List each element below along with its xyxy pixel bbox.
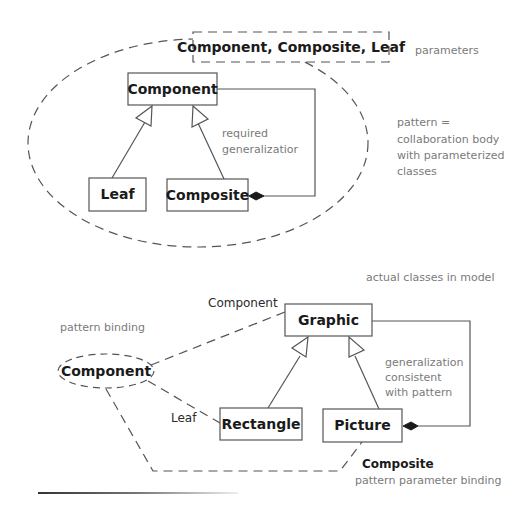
pattern-description-1: pattern = [397, 116, 450, 129]
parameters-note: parameters [415, 44, 479, 57]
generalization-picture-graphic [349, 337, 379, 409]
class-graphic[interactable]: Graphic [285, 304, 372, 336]
bottom-rule-divider [38, 492, 238, 494]
class-composite-label: Composite [166, 187, 249, 203]
collaboration-use-label: Component [61, 363, 152, 379]
generalization-arrowhead-icon [349, 337, 364, 357]
pattern-binding-note: pattern binding [60, 321, 145, 334]
parameters-box-text: Component, Composite, Leaf [177, 39, 406, 55]
composition-diamond-icon [249, 192, 264, 200]
class-leaf[interactable]: Leaf [89, 178, 146, 211]
pattern-description-3: with parameterized [397, 149, 505, 162]
parameter-binding-note: pattern parameter binding [355, 474, 502, 487]
generalization-consistent-note-3: with pattern [385, 386, 452, 399]
class-graphic-label: Graphic [298, 312, 359, 328]
role-label-component: Component [208, 296, 278, 310]
actual-classes-note: actual classes in model [366, 271, 494, 284]
generalization-arrowhead-icon [192, 106, 208, 127]
class-picture-label: Picture [334, 417, 390, 433]
generalization-consistent-note-2: consistent [385, 371, 442, 384]
class-composite[interactable]: Composite [166, 179, 249, 211]
class-component-label: Component [127, 81, 218, 97]
class-rectangle-label: Rectangle [222, 416, 301, 432]
generalization-arrowhead-icon [292, 337, 308, 357]
role-label-composite: Composite [362, 457, 434, 471]
binding-line-component [151, 312, 285, 365]
generalization-consistent-note-1: generalization [385, 356, 463, 369]
pattern-description-4: classes [397, 165, 437, 178]
pattern-description-2: collaboration body [397, 133, 500, 146]
generalization-leaf-component [112, 106, 152, 178]
collaboration-ellipse [28, 39, 368, 247]
collaboration-use-component[interactable]: Component [58, 354, 154, 388]
required-generalization-note-1: required [222, 127, 268, 140]
class-picture[interactable]: Picture [323, 409, 402, 442]
class-rectangle[interactable]: Rectangle [220, 408, 302, 440]
role-label-leaf: Leaf [171, 411, 197, 425]
required-generalization-note-2: generalizatior [222, 143, 298, 156]
class-component[interactable]: Component [127, 73, 218, 105]
generalization-rectangle-graphic [268, 337, 308, 408]
uml-diagram: Component, Composite, Leaf parameters Co… [0, 0, 520, 505]
class-leaf-label: Leaf [101, 186, 136, 202]
generalization-composite-component [192, 106, 224, 179]
composition-diamond-icon [403, 422, 418, 430]
